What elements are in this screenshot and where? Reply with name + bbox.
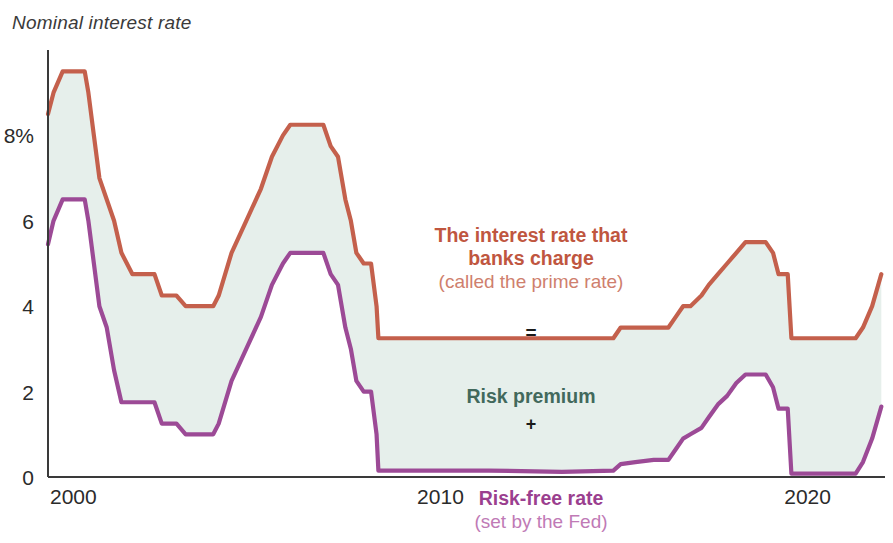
y-axis-tick-label: 6 xyxy=(22,210,34,233)
equals-sign: = xyxy=(404,322,658,344)
plus-sign: + xyxy=(404,414,658,435)
risk-free-rate-annotation: Risk-free rate (set by the Fed) xyxy=(410,487,672,533)
prime-rate-annotation: The interest rate that banks charge (cal… xyxy=(404,224,658,293)
risk-premium-label: Risk premium xyxy=(404,385,658,408)
y-axis-tick-label: 8% xyxy=(4,124,34,147)
y-axis-tick-label: 0 xyxy=(22,466,34,489)
interest-rate-chart: Nominal interest rate 02468%200020102020… xyxy=(0,0,893,543)
x-axis-tick-label: 2020 xyxy=(784,485,831,508)
fed-annotation-line2: (set by the Fed) xyxy=(410,511,672,533)
fed-annotation-line1: Risk-free rate xyxy=(410,487,672,510)
risk-premium-annotation: Risk premium xyxy=(404,385,658,408)
prime-annotation-line1: The interest rate that xyxy=(404,224,658,247)
prime-annotation-line2: banks charge xyxy=(404,247,658,270)
x-axis-tick-label: 2000 xyxy=(50,485,97,508)
prime-annotation-line3: (called the prime rate) xyxy=(404,271,658,293)
y-axis-tick-label: 2 xyxy=(22,381,34,404)
y-axis-tick-label: 4 xyxy=(22,295,34,318)
